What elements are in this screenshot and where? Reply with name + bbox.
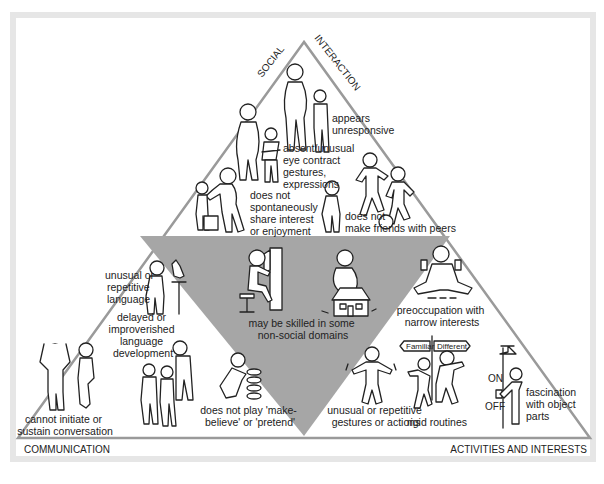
figure-adult-eye-contact-icon [237,104,259,180]
text-conversation: cannot initiate or sustain conversation [17,413,113,437]
triad-diagram: SOCIAL INTERACTION COMMUNICATION ACTIVIT… [0,0,604,484]
label-activities-interests: ACTIVITIES AND INTERESTS [450,444,587,455]
text-preoccupation: preoccupation with narrow interests [397,304,487,328]
text-appears-unresponsive: appears unresponsive [332,112,395,136]
text-unusual-language: unusual or repetitive language [105,269,157,305]
sign-different: Different [437,342,468,351]
sign-familiar: Familiar [406,342,435,351]
figure-child-arms-crossed-icon [262,128,280,182]
switch-off: OFF [485,401,505,412]
text-non-social-skills: may be skilled in some non-social domain… [248,317,357,341]
label-communication: COMMUNICATION [24,444,110,455]
text-rigid-routines: rigid routines [407,416,467,428]
switch-on: ON [488,373,503,384]
text-pretend-play: does not play 'make- believe' or 'preten… [200,404,299,428]
